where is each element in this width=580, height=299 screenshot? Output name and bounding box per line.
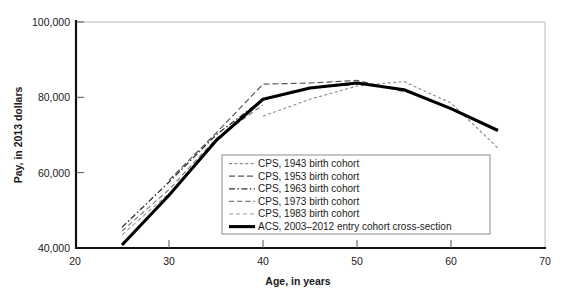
legend: CPS, 1943 birth cohortCPS, 1953 birth co… — [222, 155, 490, 234]
legend-label-3: CPS, 1973 birth cohort — [258, 196, 359, 207]
legend-label-1: CPS, 1953 birth cohort — [258, 171, 359, 182]
x-axis-title: Age, in years — [265, 275, 331, 287]
legend-label-2: CPS, 1963 birth cohort — [258, 183, 359, 194]
y-axis-title: Pay, in 2013 dollars — [12, 87, 24, 184]
pay-by-age-line-chart: 100,000 80,000 60,000 40,000 20 30 40 50… — [0, 0, 580, 299]
x-tick-label-70: 70 — [539, 255, 551, 267]
series-line-4 — [122, 193, 169, 234]
legend-label-0: CPS, 1943 birth cohort — [258, 158, 359, 169]
y-tick-label-40000: 40,000 — [38, 242, 70, 254]
y-axis-ticks — [76, 22, 84, 173]
y-tick-label-60000: 60,000 — [38, 167, 70, 179]
legend-label-4: CPS, 1983 birth cohort — [258, 208, 359, 219]
y-tick-label-80000: 80,000 — [38, 91, 70, 103]
legend-label-5: ACS, 2003–2012 entry cohort cross-sectio… — [258, 221, 451, 232]
x-tick-label-50: 50 — [351, 255, 363, 267]
x-tick-label-60: 60 — [445, 255, 457, 267]
y-tick-label-100000: 100,000 — [32, 16, 70, 28]
x-tick-label-20: 20 — [69, 255, 81, 267]
x-axis-ticks — [169, 240, 451, 248]
x-tick-label-30: 30 — [163, 255, 175, 267]
x-tick-label-40: 40 — [257, 255, 269, 267]
chart-container: 100,000 80,000 60,000 40,000 20 30 40 50… — [0, 0, 580, 299]
